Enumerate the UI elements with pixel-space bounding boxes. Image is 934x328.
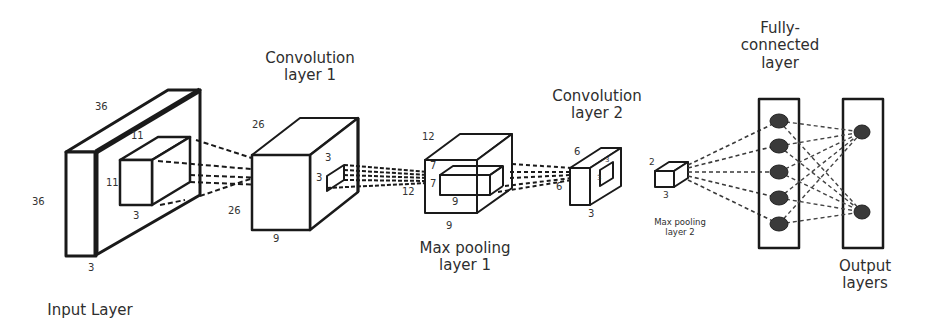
fc-node-4 [770, 191, 788, 205]
fc-node-5 [770, 217, 788, 231]
pool2-to-fc-connections [688, 121, 779, 224]
conv1-height-dim: 26 [228, 205, 241, 216]
output-layer-box [843, 99, 883, 248]
input-layer-label: Input Layer [20, 302, 160, 319]
input-width-dim: 36 [95, 101, 108, 112]
pool2-block [655, 162, 688, 187]
pool1-kernel-depth-dim: 9 [452, 196, 458, 207]
conv1-kernel-height-dim: 3 [316, 172, 322, 183]
pool1-height-dim: 12 [402, 186, 415, 197]
input-kernel-width-dim: 11 [131, 130, 144, 141]
output-node-1 [854, 125, 870, 139]
pool2-depth-dim: 3 [663, 190, 669, 200]
conv2-depth-dim: 3 [588, 208, 594, 219]
conv1-width-dim: 26 [252, 119, 265, 130]
conv2-height-dim: 6 [556, 181, 562, 192]
input-kernel-depth-dim: 3 [133, 210, 139, 221]
fc-node-1 [770, 114, 788, 128]
pool1-kernel-width-dim: 7 [430, 160, 436, 171]
conv2-label: Convolution layer 2 [542, 88, 652, 123]
pool2-label: Max pooling layer 2 [640, 218, 720, 238]
pool2-height-dim: 2 [649, 157, 655, 167]
pool1-width-dim: 12 [422, 131, 435, 142]
fc-label: Fully- connected layer [730, 20, 830, 72]
output-label: Output layers [820, 258, 910, 293]
conv1-block [252, 118, 358, 230]
fc-node-3 [770, 165, 788, 179]
conv2-kernel-height-dim: 3 [597, 174, 601, 182]
fc-to-output-connections [779, 121, 862, 224]
input-height-dim: 36 [32, 196, 45, 207]
conv1-depth-dim: 9 [273, 233, 279, 244]
output-node-2 [854, 205, 870, 219]
pool1-label: Max pooling layer 1 [390, 240, 540, 275]
conv1-label: Convolution layer 1 [250, 50, 370, 85]
fc-node-2 [770, 139, 788, 153]
input-depth-dim: 3 [88, 262, 94, 273]
pool1-block [425, 134, 512, 213]
input-kernel-height-dim: 11 [106, 177, 119, 188]
pool1-depth-dim: 9 [446, 220, 452, 231]
conv1-kernel-width-dim: 3 [325, 152, 331, 163]
conv2-width-dim: 6 [574, 146, 580, 157]
pool1-kernel-height-dim: 7 [430, 178, 436, 189]
conv2-kernel-width-dim: 3 [605, 156, 609, 164]
